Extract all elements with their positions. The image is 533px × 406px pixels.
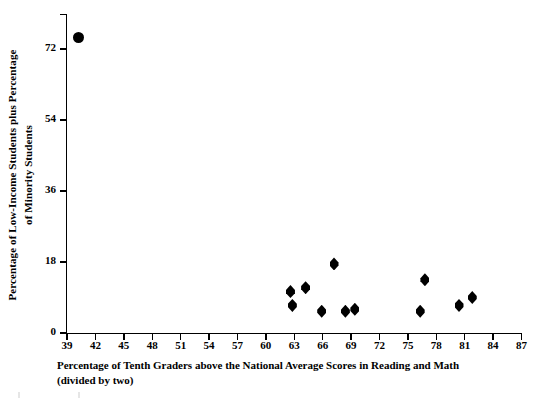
data-point-schools-10 (468, 291, 477, 304)
data-point-schools-6 (350, 303, 359, 316)
x-tick-label-39: 39 (52, 339, 82, 351)
x-tick-label-66: 66 (308, 339, 338, 351)
data-point-schools-7 (416, 305, 425, 318)
x-tick-label-42: 42 (80, 339, 110, 351)
data-point-schools-5 (341, 305, 350, 318)
y-tick-72 (60, 48, 67, 49)
y-axis-title-line-2: of Minority Students (20, 125, 36, 225)
x-axis-title: Percentage of Tenth Graders above the Na… (57, 358, 527, 388)
y-axis-title: Percentage of Low-Income Students plus P… (0, 10, 40, 340)
x-tick-label-84: 84 (478, 339, 508, 351)
y-tick-label-0: 0 (36, 325, 56, 337)
x-tick-label-69: 69 (336, 339, 366, 351)
x-tick-label-45: 45 (109, 339, 139, 351)
x-tick-label-48: 48 (137, 339, 167, 351)
data-point-schools-3 (317, 305, 326, 318)
y-tick-label-72: 72 (36, 41, 56, 53)
y-axis-title-line-1: Percentage of Low-Income Students plus P… (4, 49, 20, 300)
y-tick-label-54: 54 (36, 112, 56, 124)
y-tick-36 (60, 190, 67, 191)
x-tick-label-72: 72 (364, 339, 394, 351)
y-axis-top-cap-tick (60, 14, 67, 15)
data-point-schools-4 (330, 257, 339, 270)
y-tick-18 (60, 261, 67, 262)
x-tick-label-60: 60 (251, 339, 281, 351)
scatter-plot-figure: Percentage of Low-Income Students plus P… (0, 0, 533, 406)
x-tick-label-81: 81 (450, 339, 480, 351)
data-point-schools-9 (455, 299, 464, 312)
x-axis-title-line-1: Percentage of Tenth Graders above the Na… (57, 358, 527, 373)
data-point-schools-0 (286, 285, 295, 298)
x-axis-title-line-2: (divided by two) (57, 373, 527, 388)
page-scan-artifact (18, 392, 138, 398)
y-tick-54 (60, 119, 67, 120)
x-tick-label-78: 78 (421, 339, 451, 351)
x-tick-label-54: 54 (194, 339, 224, 351)
x-tick-label-51: 51 (166, 339, 196, 351)
x-tick-label-57: 57 (222, 339, 252, 351)
y-tick-label-36: 36 (36, 183, 56, 195)
data-point-schools-1 (288, 299, 297, 312)
x-tick-label-87: 87 (507, 339, 533, 351)
data-point-outlier-0 (73, 32, 84, 43)
data-point-schools-8 (420, 273, 429, 286)
y-tick-label-18: 18 (36, 254, 56, 266)
y-axis-line (66, 14, 67, 334)
data-point-schools-2 (301, 281, 310, 294)
x-tick-label-75: 75 (393, 339, 423, 351)
x-tick-label-63: 63 (279, 339, 309, 351)
